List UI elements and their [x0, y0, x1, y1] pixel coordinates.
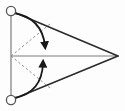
bottom-left-node-marker: [6, 95, 15, 104]
geometry-figure: [0, 0, 125, 111]
diagram-canvas: [0, 0, 125, 111]
top-left-node-marker: [6, 6, 15, 15]
